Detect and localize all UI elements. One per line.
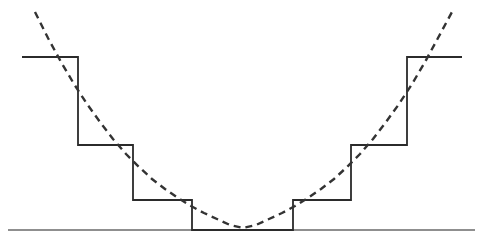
figure-container (0, 0, 490, 252)
quantizer-parabola-diagram (0, 0, 490, 252)
figure-background (0, 0, 490, 252)
